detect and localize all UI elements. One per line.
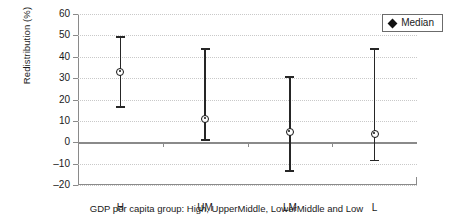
error-bar-whisker bbox=[374, 48, 376, 161]
error-bar-cap-lower bbox=[201, 139, 210, 141]
error-bar-cap-upper bbox=[116, 36, 125, 38]
x-axis-tick bbox=[248, 142, 249, 147]
y-axis-tick-label: –10 bbox=[53, 159, 70, 169]
error-bar-cap-lower bbox=[116, 106, 125, 108]
y-axis-tick-label: 10 bbox=[59, 116, 70, 126]
error-bar-cap-upper bbox=[285, 76, 294, 78]
x-axis-tick bbox=[332, 142, 333, 147]
median-diamond-icon bbox=[388, 18, 398, 28]
y-axis-tick-label: 60 bbox=[59, 9, 70, 19]
y-axis-tick-label: 40 bbox=[59, 52, 70, 62]
y-axis-tick-label: 20 bbox=[59, 95, 70, 105]
error-bar-cap-lower bbox=[370, 160, 379, 162]
y-axis-title: Redistribution (%) bbox=[21, 0, 32, 116]
y-axis-tick-label: 0 bbox=[64, 137, 70, 147]
y-axis-tick bbox=[73, 185, 78, 186]
y-axis-tick-label: 30 bbox=[59, 73, 70, 83]
y-axis-tick bbox=[73, 121, 78, 122]
y-axis-tick bbox=[73, 78, 78, 79]
gridline bbox=[78, 185, 417, 186]
y-axis-tick bbox=[73, 57, 78, 58]
y-axis-tick-label: 50 bbox=[59, 30, 70, 40]
median-marker bbox=[286, 128, 294, 136]
gridline bbox=[78, 35, 417, 36]
y-axis-tick bbox=[73, 14, 78, 15]
gridline bbox=[78, 57, 417, 58]
error-bar-cap-lower bbox=[285, 170, 294, 172]
legend-label-median: Median bbox=[401, 18, 434, 28]
median-marker bbox=[371, 130, 379, 138]
y-axis-tick-label: –20 bbox=[53, 180, 70, 190]
median-marker bbox=[116, 68, 124, 76]
x-axis-title: GDP per capita group: High, UpperMiddle,… bbox=[0, 203, 453, 214]
y-axis-tick bbox=[73, 35, 78, 36]
error-bar-whisker bbox=[204, 48, 206, 141]
x-axis-right-tick bbox=[416, 177, 417, 185]
median-marker bbox=[201, 115, 209, 123]
chart-root: Redistribution (%) 6050403020100–10–20HU… bbox=[0, 0, 453, 221]
gridline bbox=[78, 100, 417, 101]
error-bar-whisker bbox=[289, 76, 291, 172]
error-bar-cap-upper bbox=[201, 48, 210, 50]
gridline bbox=[78, 121, 417, 122]
plot-area: 6050403020100–10–20HUMLML bbox=[78, 14, 417, 185]
y-axis-tick bbox=[73, 164, 78, 165]
error-bar-cap-upper bbox=[370, 48, 379, 50]
gridline bbox=[78, 14, 417, 15]
gridline bbox=[78, 78, 417, 79]
gridline bbox=[78, 164, 417, 165]
legend: Median bbox=[382, 14, 443, 32]
y-axis-tick bbox=[73, 100, 78, 101]
x-axis-tick bbox=[163, 142, 164, 147]
